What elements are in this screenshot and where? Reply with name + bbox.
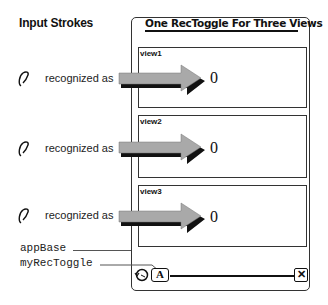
app-title: One RecToggle For Three Views [145,17,298,29]
title-underline [145,30,298,32]
view3-label: view3 [140,187,162,196]
view1-label: view1 [140,49,162,58]
input-strokes-heading: Input Strokes [19,16,93,30]
recognition-arrow-icon [117,133,207,165]
zero-stroke-icon [17,140,33,158]
recognized-as-label: recognized as [45,142,114,154]
undo-icon[interactable] [134,268,150,282]
close-button[interactable]: ✕ [294,268,308,282]
recognized-as-label: recognized as [45,209,114,221]
view1-value: 0 [210,69,218,87]
appbase-leader-line [73,250,131,251]
recognition-arrow-icon [117,64,207,96]
zero-stroke-icon [17,70,33,88]
zero-stroke-icon [17,207,33,225]
myrectoggle-callout-label: myRecToggle [20,257,93,269]
view3-value: 0 [210,208,218,226]
view2-value: 0 [210,139,218,157]
rectoggle-button[interactable]: A [151,268,169,282]
recognition-arrow-icon [117,202,207,234]
recognized-as-label: recognized as [45,72,114,84]
view2-label: view2 [140,117,162,126]
status-bar-line [170,275,294,277]
appbase-callout-label: appBase [20,242,66,254]
